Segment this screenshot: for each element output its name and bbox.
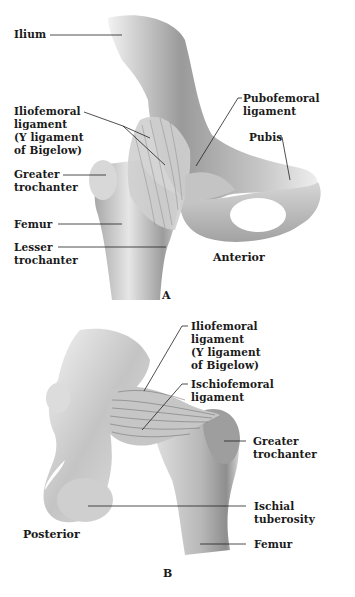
label-ilium: Ilium: [14, 28, 46, 41]
greater-trochanter-shape: [89, 160, 117, 200]
obturator-foramen: [230, 198, 286, 232]
figure-b-posterior-hip: Iliofemoral ligament (Y ligament of Bige…: [0, 300, 355, 597]
label-pubofemoral-ligament: Pubofemoral ligament: [243, 92, 320, 118]
label-femur-b: Femur: [254, 538, 292, 551]
label-greater-trochanter-b: Greater trochanter: [253, 435, 317, 461]
label-ischial-tuberosity: Ischial tuberosity: [254, 500, 315, 526]
view-label-posterior: Posterior: [23, 528, 80, 541]
label-greater-trochanter-a: Greater trochanter: [14, 168, 78, 194]
ischial-spine-shape: [46, 383, 70, 413]
label-iliofemoral-ligament-a: Iliofemoral ligament (Y ligament of Bige…: [14, 105, 84, 157]
figure-a-anterior-hip: Ilium Iliofemoral ligament (Y ligament o…: [0, 0, 355, 300]
panel-letter-b: B: [163, 567, 172, 580]
label-pubis: Pubis: [249, 131, 282, 144]
label-lesser-trochanter: Lesser trochanter: [14, 241, 78, 267]
label-femur-a: Femur: [14, 218, 52, 231]
view-label-anterior: Anterior: [213, 251, 265, 264]
label-ischiofemoral-ligament: Ischiofemoral ligament: [191, 378, 274, 404]
ischial-tuberosity-shape: [57, 478, 113, 522]
label-iliofemoral-ligament-b: Iliofemoral ligament (Y ligament of Bige…: [191, 320, 261, 372]
